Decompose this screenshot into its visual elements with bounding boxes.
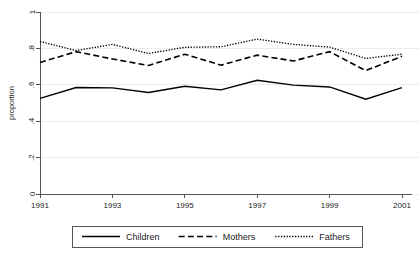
y-axis-title: proportion bbox=[7, 86, 16, 120]
y-tick-label: .2 bbox=[28, 154, 37, 161]
y-axis-title-text: proportion bbox=[7, 86, 16, 120]
y-tick-label: .4 bbox=[28, 117, 37, 124]
legend-label-children: Children bbox=[126, 232, 160, 242]
y-tick-label: 1 bbox=[28, 9, 37, 14]
y-tick-label: .8 bbox=[28, 45, 37, 52]
line-chart: 0.2.4.6.81 199119931995199719992001 prop… bbox=[0, 0, 419, 253]
x-tick-label: 1995 bbox=[176, 201, 194, 210]
chart-legend: ChildrenMothersFathers bbox=[72, 226, 362, 247]
x-tick-label: 1993 bbox=[104, 201, 122, 210]
x-tick-label: 1997 bbox=[248, 201, 266, 210]
chart-container: 0.2.4.6.81 199119931995199719992001 prop… bbox=[0, 0, 419, 253]
legend-label-fathers: Fathers bbox=[319, 232, 350, 242]
x-tick-label: 1999 bbox=[321, 201, 339, 210]
y-tick-label: 0 bbox=[28, 191, 37, 196]
x-tick-label: 1991 bbox=[31, 201, 49, 210]
y-tick-label: .6 bbox=[28, 81, 37, 88]
legend-label-mothers: Mothers bbox=[223, 232, 256, 242]
chart-background bbox=[0, 0, 419, 253]
x-tick-label: 2001 bbox=[393, 201, 411, 210]
